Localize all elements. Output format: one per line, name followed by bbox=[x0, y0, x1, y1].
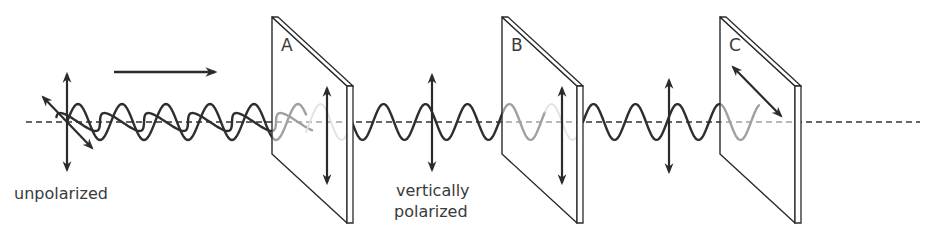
filter-label-a: A bbox=[281, 35, 293, 55]
polarization-diagram: ABC unpolarized vertically polarized bbox=[0, 0, 930, 241]
filter-side-edge bbox=[577, 86, 583, 223]
caption-vertically: vertically bbox=[396, 181, 470, 200]
filter-side-edge bbox=[347, 86, 353, 223]
caption-polarized: polarized bbox=[394, 202, 468, 221]
filter-label-c: C bbox=[729, 35, 741, 55]
filter-b: B bbox=[502, 17, 583, 223]
filter-side-edge bbox=[795, 86, 801, 223]
filter-a: A bbox=[272, 17, 353, 223]
caption-unpolarized: unpolarized bbox=[14, 184, 108, 203]
filter-label-b: B bbox=[511, 35, 523, 55]
polarizing-filters: ABC bbox=[272, 17, 801, 223]
filter-c: C bbox=[720, 17, 801, 223]
